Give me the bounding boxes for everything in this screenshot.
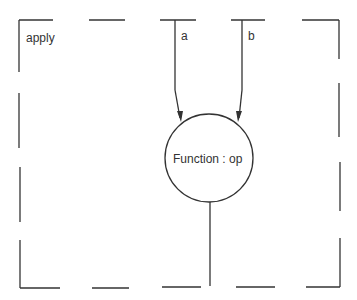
frame-bottom-border	[20, 287, 340, 288]
input-b-label: b	[248, 30, 255, 42]
input-a-label: a	[181, 30, 188, 42]
arrowhead-b	[236, 111, 242, 122]
frame-right-border	[339, 20, 340, 287]
frame-left-border	[19, 20, 20, 288]
frame-label: apply	[26, 32, 55, 44]
input-b-connector	[239, 20, 242, 118]
apply-diagram	[0, 0, 357, 300]
function-label: Function : op	[173, 153, 242, 165]
arrowhead-a	[177, 111, 183, 122]
input-a-connector	[175, 20, 180, 118]
